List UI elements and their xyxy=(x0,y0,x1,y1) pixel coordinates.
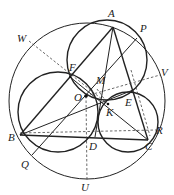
side-bc xyxy=(20,135,148,140)
circle-afk xyxy=(67,20,147,100)
label-w: W xyxy=(17,32,27,44)
label-m: M xyxy=(95,74,106,86)
label-f: F xyxy=(68,61,76,73)
label-u: U xyxy=(81,181,90,193)
label-e: E xyxy=(124,96,132,108)
label-o: O xyxy=(74,91,82,103)
label-q: Q xyxy=(21,158,29,170)
label-d: D xyxy=(88,140,97,152)
label-v: V xyxy=(161,66,169,78)
geometry-diagram: A P V W F M O E K B R C D Q U xyxy=(0,0,174,195)
point-f-dot xyxy=(69,76,71,78)
label-a: A xyxy=(107,7,115,19)
dashed-p-c xyxy=(131,70,150,136)
label-k: K xyxy=(105,106,114,118)
point-k-dot xyxy=(107,103,110,106)
label-c: C xyxy=(145,140,153,152)
label-b: B xyxy=(8,131,15,143)
label-p: P xyxy=(139,22,147,34)
point-o-dot xyxy=(84,94,88,98)
label-r: R xyxy=(155,124,163,136)
